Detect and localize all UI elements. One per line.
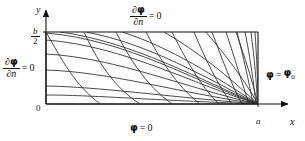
two-denominator: 2 <box>31 37 40 46</box>
boundary-condition-top: ∂φ ∂n = 0 <box>130 5 161 27</box>
top-bc-denominator: ∂n <box>130 17 147 28</box>
axis-lines <box>46 10 288 104</box>
equals-sign: = <box>140 123 146 133</box>
phi-symbol: φ <box>10 56 18 67</box>
n-symbol: n <box>138 16 143 27</box>
equals-sign: = <box>149 11 155 21</box>
boundary-condition-right: φ = φ0 <box>266 68 295 81</box>
streamline-curve <box>46 54 258 104</box>
left-bc-value: 0 <box>29 63 34 73</box>
bottom-bc-value: 0 <box>147 123 152 133</box>
equipotential-curve <box>84 32 140 104</box>
y-tick-label-b-over-2: b 2 <box>31 27 40 47</box>
phi-symbol: φ <box>137 4 145 15</box>
right-bc-value: φ0 <box>283 68 294 81</box>
streamline-curve <box>46 86 258 104</box>
phi-symbol: φ <box>266 70 274 80</box>
equals-sign: = <box>22 63 28 73</box>
x-tick-label-a: a <box>256 117 261 126</box>
boundary-condition-left: ∂φ ∂n = 0 <box>3 57 34 79</box>
equipotential-curve <box>46 32 100 104</box>
origin-label: 0 <box>36 104 41 113</box>
top-bc-value: 0 <box>156 11 161 21</box>
n-symbol: n <box>11 68 16 79</box>
phi-symbol: φ <box>130 123 138 133</box>
boundary-condition-bottom: φ = 0 <box>130 123 152 133</box>
flow-net-curves <box>46 32 258 104</box>
equals-sign: = <box>276 70 282 80</box>
y-axis-label: y <box>36 5 40 15</box>
streamline-curve <box>206 32 258 104</box>
left-bc-denominator: ∂n <box>3 69 20 80</box>
x-axis-label: x <box>290 117 294 127</box>
phi-subscript: 0 <box>291 73 295 81</box>
